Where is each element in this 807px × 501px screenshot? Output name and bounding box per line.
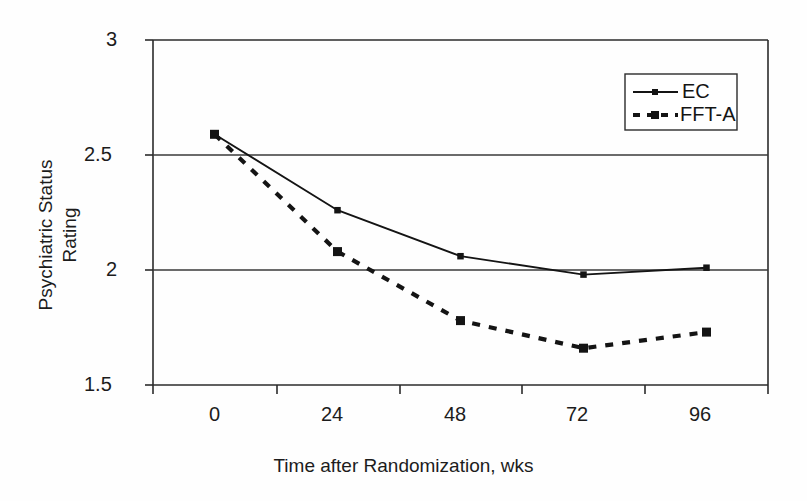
x-axis-title: Time after Randomization, wks: [0, 455, 807, 477]
x-tick-label-24: 24: [321, 403, 343, 426]
y-tick-label-2: 2: [106, 258, 117, 281]
y-tick-label-2point5: 2.5: [84, 143, 112, 166]
legend-label-ec: EC: [682, 80, 710, 103]
data-point-marker: [333, 247, 342, 256]
gridlines: [153, 155, 768, 270]
line-chart-canvas: Psychiatric Status Rating: [0, 0, 807, 501]
y-axis-title-line1: Psychiatric Status: [35, 160, 56, 311]
x-axis-ticks: [153, 385, 768, 394]
data-point-marker: [702, 328, 711, 337]
x-tick-label-0: 0: [209, 403, 220, 426]
y-tick-label-1point5: 1.5: [84, 373, 112, 396]
data-point-marker: [334, 207, 341, 214]
data-point-marker: [456, 316, 465, 325]
series-ec: [211, 131, 710, 278]
x-tick-label-72: 72: [566, 403, 588, 426]
series-fft-a: [210, 130, 711, 353]
legend-label-fft-a: FFT-A: [680, 103, 736, 126]
data-point-marker: [580, 271, 587, 278]
data-point-marker: [579, 344, 588, 353]
data-point-marker: [211, 131, 218, 138]
y-tick-label-3: 3: [106, 28, 117, 51]
chart-figure: Psychiatric Status Rating 3 2.5 2 1.5 0 …: [0, 0, 807, 501]
y-axis-title: Psychiatric Status Rating: [35, 160, 80, 311]
y-axis-title-line2: Rating: [59, 208, 80, 263]
data-point-marker: [703, 264, 710, 271]
x-tick-label-96: 96: [689, 403, 711, 426]
x-tick-label-48: 48: [444, 403, 466, 426]
data-point-marker: [457, 253, 464, 260]
y-axis-ticks: [145, 40, 153, 385]
